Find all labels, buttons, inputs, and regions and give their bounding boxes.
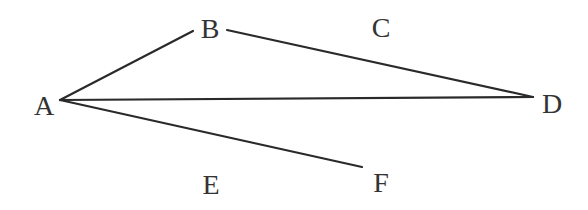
- point-label-a: A: [34, 92, 54, 120]
- segment-a-d: [60, 97, 533, 100]
- geometry-diagram: A B C D E F: [0, 0, 588, 210]
- point-label-f: F: [373, 169, 389, 197]
- point-label-c: C: [372, 14, 391, 42]
- point-label-b: B: [201, 15, 220, 43]
- segment-a-b: [60, 31, 193, 100]
- point-label-e: E: [202, 171, 219, 199]
- point-label-d: D: [542, 90, 562, 118]
- segment-a-f: [60, 100, 362, 167]
- diagram-lines: [0, 0, 588, 210]
